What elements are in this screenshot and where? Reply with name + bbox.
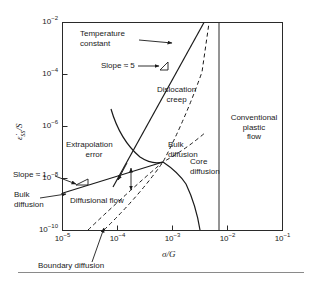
x-tick-exp-1: −4 xyxy=(119,232,126,238)
y-axis-title-slash: / xyxy=(14,128,24,131)
annotation-boundary-diffusion: Boundary diffusion xyxy=(38,261,104,271)
x-tick-exp-0: −5 xyxy=(64,232,71,238)
bulk-diffusion-left-line-2: diffusion xyxy=(14,200,44,210)
extrapolation-error-arrow xyxy=(118,163,127,180)
bulk-diffusion-left-line-1: Bulk xyxy=(14,190,44,200)
x-tick-exp-2: −3 xyxy=(174,232,181,238)
y-tick-exp-0: −2 xyxy=(51,15,58,21)
footer-rule xyxy=(18,272,304,273)
annotation-bulk-diffusion-left: Bulk diffusion xyxy=(14,190,44,209)
temperature-constant-line-2: constant xyxy=(80,39,125,49)
x-tick-label-4: 10−1 xyxy=(266,234,299,243)
annotation-conventional-plastic-flow: Conventional plastic flow xyxy=(226,113,282,142)
slope-1-triangle-marker xyxy=(76,179,88,185)
y-tick-exp-2: −6 xyxy=(51,119,58,125)
y-tick-label-2: 10−6 xyxy=(26,121,58,130)
x-axis-title: σ/G xyxy=(162,249,175,259)
x-axis-ticks xyxy=(63,226,283,231)
x-tick-label-3: 10−2 xyxy=(211,234,244,243)
dislocation-creep-line-2: creep xyxy=(157,95,196,105)
y-tick-label-1: 10−4 xyxy=(26,69,58,78)
conventional-line-1: Conventional xyxy=(226,113,282,123)
x-tick-label-0: 10−5 xyxy=(46,234,79,243)
series-diffusional-flow-slope-1 xyxy=(63,162,163,193)
temperature-constant-arrow xyxy=(139,40,172,43)
y-axis-ticks xyxy=(63,23,68,231)
y-tick-exp-4: −10 xyxy=(48,223,58,229)
annotation-slope-1: Slope ≈ 1 xyxy=(13,170,47,180)
annotation-diffusional-flow: Diffusional flow xyxy=(70,196,124,206)
y-tick-label-4: 10−10 xyxy=(22,225,58,234)
annotation-slope-5: Slope ≈ 5 xyxy=(101,61,135,71)
y-axis-title-den: S xyxy=(14,124,24,129)
dislocation-creep-line-1: Dislocation xyxy=(157,85,196,95)
slope-1-arrow xyxy=(55,176,76,184)
y-tick-exp-3: −8 xyxy=(51,171,58,177)
x-tick-exp-4: −1 xyxy=(284,232,291,238)
extrapolation-line-1: Extrapolation xyxy=(66,140,122,150)
annotation-dislocation-creep: Dislocation creep xyxy=(157,85,196,104)
y-axis-title-num: ε̇ xyxy=(14,136,24,140)
x-tick-label-2: 10−3 xyxy=(156,234,189,243)
extrapolation-line-2: error xyxy=(66,150,122,160)
y-tick-label-0: 10−2 xyxy=(26,17,58,26)
temperature-constant-line-1: Temperature xyxy=(80,29,125,39)
annotation-temperature-constant: Temperature constant xyxy=(80,29,125,48)
x-tick-label-1: 10−4 xyxy=(101,234,134,243)
bulk-diffusion-mid-line-1: Bulk xyxy=(168,140,198,150)
core-diffusion-line-1: Core xyxy=(190,157,220,167)
x-axis-title-den: G xyxy=(169,249,176,259)
conventional-line-3: flow xyxy=(226,132,282,142)
slope-5-triangle-marker xyxy=(160,62,168,70)
annotation-core-diffusion: Core diffusion xyxy=(190,157,220,176)
core-diffusion-line-2: diffusion xyxy=(190,167,220,177)
conventional-line-2: plastic xyxy=(226,123,282,133)
y-axis-title-sub: ss xyxy=(18,131,27,137)
annotation-extrapolation-error: Extrapolation error xyxy=(66,140,122,159)
y-tick-exp-1: −4 xyxy=(51,67,58,73)
deformation-mechanism-map-figure: 10−2 10−4 10−6 10−8 10−10 10−5 10−4 10−3… xyxy=(0,0,309,282)
y-axis-title: ε̇ss/S xyxy=(14,124,27,140)
x-tick-exp-3: −2 xyxy=(229,232,236,238)
